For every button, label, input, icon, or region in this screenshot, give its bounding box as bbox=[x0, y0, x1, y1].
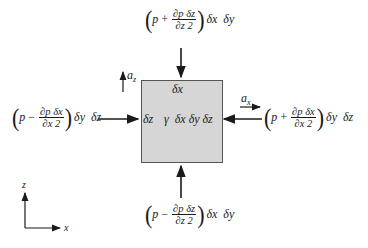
z-axis-label: z bbox=[22, 179, 26, 190]
element-weight-label: γ δx δy δz bbox=[164, 112, 213, 127]
top-force-expression: ( p + ∂p δz ∂z 2 ) δx δy bbox=[145, 8, 234, 31]
ax-label: ax bbox=[241, 91, 251, 107]
element-top-label: δx bbox=[172, 82, 183, 97]
x-axis-label: x bbox=[64, 222, 68, 233]
bottom-force-expression: ( p − ∂p δz ∂z 2 ) δx δy bbox=[145, 203, 234, 226]
fraction: ∂p δx ∂x 2 bbox=[291, 106, 316, 129]
element-left-label: δz bbox=[143, 112, 153, 127]
fraction: ∂p δz ∂z 2 bbox=[172, 8, 196, 31]
left-force-expression: ( p − ∂p δx ∂x 2 ) δy δz bbox=[12, 106, 101, 129]
fraction: ∂p δz ∂z 2 bbox=[172, 203, 196, 226]
az-label: az bbox=[127, 68, 136, 84]
right-force-expression: ( p + ∂p δx ∂x 2 ) δy δz bbox=[264, 106, 353, 129]
fraction: ∂p δx ∂x 2 bbox=[39, 106, 64, 129]
